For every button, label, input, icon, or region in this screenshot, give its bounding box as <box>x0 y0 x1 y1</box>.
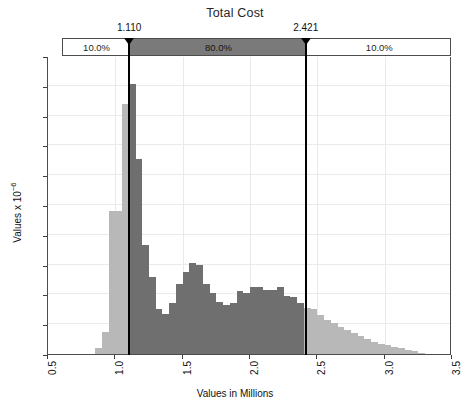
x-tick-label: 2.0 <box>249 361 260 375</box>
histogram-bar <box>142 245 149 354</box>
gridline-horizontal <box>48 115 450 116</box>
histogram-bar <box>136 159 143 354</box>
histogram-bar <box>270 290 277 354</box>
certainty-segment-label: 80.0% <box>205 42 232 53</box>
histogram-bar <box>405 350 412 354</box>
forecast-chart: Total Cost 10.0%80.0%10.0% 0.00.20.40.60… <box>0 0 470 406</box>
histogram-bar <box>183 272 190 354</box>
gridline-horizontal <box>48 204 450 205</box>
x-tick-mark <box>47 355 48 359</box>
histogram-bar <box>203 284 210 354</box>
histogram-bar <box>358 336 365 354</box>
histogram-bar <box>371 342 378 354</box>
gridline-horizontal <box>48 85 450 86</box>
certainty-segment-label: 10.0% <box>366 42 393 53</box>
y-tick-mark <box>43 266 47 267</box>
x-tick-mark <box>114 355 115 359</box>
histogram-bar <box>324 320 331 354</box>
histogram-bar <box>189 263 196 354</box>
y-tick-mark <box>43 87 47 88</box>
histogram-bar <box>230 303 237 354</box>
histogram-bar <box>243 293 250 354</box>
lower-bound-marker-handle[interactable] <box>124 38 134 45</box>
upper-bound-marker-line[interactable] <box>305 40 307 355</box>
x-tick-label: 0.5 <box>47 361 58 375</box>
x-tick-mark <box>182 355 183 359</box>
x-tick-mark <box>249 355 250 359</box>
histogram-bar <box>391 347 398 354</box>
plot-area <box>47 57 451 355</box>
gridline-horizontal <box>48 144 450 145</box>
y-tick-mark <box>43 146 47 147</box>
histogram-bar <box>297 303 304 354</box>
histogram-bar <box>109 211 116 354</box>
histogram-bar <box>277 287 284 354</box>
certainty-segment-0[interactable]: 10.0% <box>63 39 130 55</box>
histogram-bar <box>263 290 270 354</box>
gridline-horizontal <box>48 174 450 175</box>
histogram-bar <box>398 348 405 354</box>
histogram-bar <box>338 327 345 354</box>
certainty-segment-label: 10.0% <box>83 42 110 53</box>
x-tick-label: 1.0 <box>114 361 125 375</box>
x-axis-label: Values in Millions <box>0 388 470 399</box>
histogram-bar <box>412 351 419 354</box>
x-tick-mark <box>451 355 452 359</box>
histogram-bar <box>290 297 297 354</box>
histogram-bar <box>331 323 338 354</box>
histogram-bar <box>162 314 169 354</box>
y-tick-mark <box>43 206 47 207</box>
histogram-bar <box>257 287 264 354</box>
upper-bound-marker-handle[interactable] <box>301 38 311 45</box>
x-tick-label: 2.5 <box>316 361 327 375</box>
histogram-bar <box>115 211 122 354</box>
histogram-bar <box>250 287 257 354</box>
lower-bound-marker-line[interactable] <box>128 40 130 355</box>
upper-bound-marker-label: 2.421 <box>293 22 318 33</box>
lower-bound-marker-label: 1.110 <box>117 22 141 33</box>
x-tick-label: 3.5 <box>451 361 462 375</box>
y-tick-mark <box>43 117 47 118</box>
y-axis-label: Values x 10−6 <box>9 153 22 273</box>
y-tick-mark <box>43 176 47 177</box>
histogram-bar <box>102 332 109 354</box>
y-tick-mark <box>43 236 47 237</box>
histogram-bar <box>317 315 324 354</box>
gridline-vertical <box>317 57 318 354</box>
x-tick-mark <box>316 355 317 359</box>
histogram-bar <box>284 296 291 354</box>
y-tick-mark <box>43 57 47 58</box>
histogram-bar <box>418 353 425 354</box>
histogram-bar <box>169 303 176 354</box>
certainty-segment-1[interactable]: 80.0% <box>130 39 307 55</box>
histogram-bar <box>311 309 318 354</box>
histogram-bar <box>210 293 217 354</box>
page-title: Total Cost <box>0 6 470 20</box>
x-tick-mark <box>384 355 385 359</box>
x-tick-label: 3.0 <box>383 361 394 375</box>
x-tick-label: 1.5 <box>181 361 192 375</box>
y-tick-mark <box>43 295 47 296</box>
histogram-bar <box>95 348 102 354</box>
histogram-bar <box>156 309 163 354</box>
histogram-bar <box>237 291 244 354</box>
histogram-bar <box>149 277 156 354</box>
histogram-bar <box>344 330 351 354</box>
histogram-bar <box>216 302 223 354</box>
certainty-band[interactable]: 10.0%80.0%10.0% <box>62 38 451 56</box>
histogram-bar <box>364 339 371 354</box>
gridline-vertical <box>385 57 386 354</box>
y-tick-mark <box>43 325 47 326</box>
certainty-segment-2[interactable]: 10.0% <box>307 39 452 55</box>
histogram-bar <box>176 284 183 354</box>
histogram-bar <box>196 265 203 354</box>
histogram-bar <box>378 344 385 354</box>
histogram-bar <box>223 305 230 354</box>
histogram-bar <box>385 345 392 354</box>
histogram-bar <box>351 333 358 354</box>
